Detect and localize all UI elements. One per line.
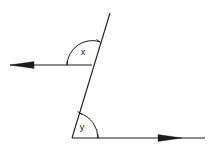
angle-y-label: y [80, 122, 85, 132]
diagram-background [0, 0, 212, 147]
angle-x-label: x [81, 47, 86, 57]
angle-diagram: x y [0, 0, 212, 147]
geometry-canvas: x y [0, 0, 212, 147]
